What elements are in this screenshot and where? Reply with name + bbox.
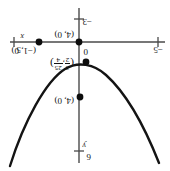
x-tick-right-label: −5	[153, 45, 163, 54]
x-intercept-left-label: (4, 0)	[55, 30, 75, 39]
y-tick-bottom-label: 6	[87, 152, 92, 161]
point-x-intercept-right	[36, 39, 43, 46]
point-y-intercept	[77, 94, 84, 101]
point-x-intercept-left	[76, 39, 83, 46]
x-axis-label: x	[20, 32, 24, 40]
vertex-x-denominator: 2	[65, 55, 71, 63]
origin-label: 0	[84, 47, 89, 56]
y-axis-label: y	[82, 141, 86, 149]
vertex-y-fraction: 254	[54, 55, 63, 71]
vertex-x-fraction: 32	[65, 55, 71, 71]
x-intercept-right-label: (−1, 0)	[11, 46, 36, 55]
y-tick-top-label: −3	[82, 17, 92, 26]
point-vertex	[83, 59, 90, 66]
figure-canvas: 0 x 5 −5 y 6 −3 (4, 0) (−1, 0) (4, 0) (3…	[0, 0, 170, 171]
y-intercept-label: (4, 0)	[55, 96, 75, 105]
vertex-label: (32,254)	[50, 55, 74, 71]
vertex-y-denominator: 4	[54, 55, 63, 63]
vertex-open-paren: (	[70, 58, 74, 70]
vertex-x-numerator: 3	[65, 64, 71, 71]
vertex-y-numerator: 25	[54, 64, 63, 71]
vertex-comma: ,	[63, 59, 65, 68]
vertex-close-paren: )	[50, 58, 54, 70]
parabola-curve	[10, 64, 159, 166]
rotated-figure-group: 0 x 5 −5 y 6 −3 (4, 0) (−1, 0) (4, 0) (3…	[0, 0, 170, 171]
